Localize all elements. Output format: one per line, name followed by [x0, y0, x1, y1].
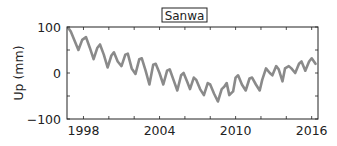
x-tick-label: 2010: [220, 123, 252, 138]
data-line-sanwa-up: [68, 28, 315, 102]
y-tick-label: −100: [27, 112, 61, 127]
x-tick-label: 2004: [144, 123, 176, 138]
chart-title: Sanwa: [165, 9, 205, 23]
y-tick-label: 0: [53, 66, 61, 81]
chart: Sanwa Up (mm) 1000−100 1998200420102016: [0, 0, 337, 146]
x-tick-label: 1998: [68, 123, 100, 138]
chart-title-box: Sanwa: [162, 8, 207, 23]
x-tick-label: 2016: [296, 123, 328, 138]
y-axis-title: Up (mm): [11, 45, 26, 100]
y-tick-label: 100: [37, 20, 61, 35]
